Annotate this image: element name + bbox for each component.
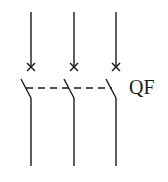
pole-2 xyxy=(64,12,78,166)
pole-3 xyxy=(106,12,120,166)
breaker-label: QF xyxy=(129,77,155,97)
pole-1 xyxy=(21,12,35,166)
